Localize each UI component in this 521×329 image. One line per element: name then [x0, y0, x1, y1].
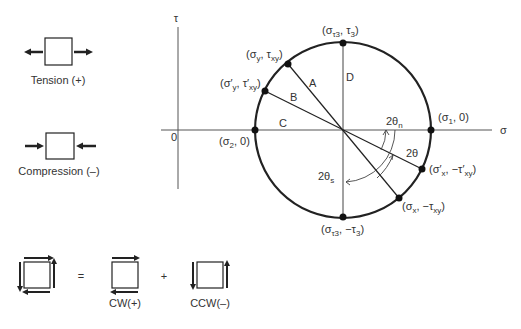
label-point-sigma-x-prime: (σ′x, −τ′xy): [429, 163, 476, 178]
tension-square: [45, 38, 72, 65]
label-two-theta: 2θ: [406, 147, 418, 159]
label-point-top: (στ3, τ3): [322, 24, 359, 39]
tension-arrow-left-icon: [24, 49, 43, 56]
label-point-sigma-2: (σ2, 0): [219, 135, 250, 150]
cw-label: CW(+): [109, 297, 141, 309]
label-point-sigma-y: (σy, τxy): [246, 48, 283, 63]
shear-cw-element: [110, 255, 140, 295]
shear-combined-element: [17, 255, 57, 295]
label-point-sigma-1: (σ1, 0): [438, 111, 469, 126]
equals-sign: =: [78, 270, 84, 282]
two-theta-n-arc: [381, 130, 386, 150]
tau-axis-label: τ: [174, 12, 179, 24]
compression-arrow-right-icon: [76, 143, 96, 150]
label-d: D: [346, 71, 354, 83]
tension-label: Tension (+): [31, 74, 86, 86]
compression-label: Compression (–): [18, 165, 99, 177]
mohr-circle-diagram: Tension (+) Compression (–) τ σ 0: [0, 0, 521, 329]
point-sigma-y-prime: [262, 88, 269, 95]
label-two-theta-s: 2θs: [318, 170, 334, 185]
tension-element: Tension (+): [24, 38, 93, 86]
point-sigma-2: [252, 127, 259, 134]
tension-arrow-right-icon: [74, 49, 93, 56]
sigma-axis-label: σ: [500, 124, 507, 136]
compression-square: [46, 133, 74, 159]
label-point-sigma-x: (σx, −τxy): [402, 200, 445, 215]
plus-sign: +: [161, 270, 167, 282]
label-point-bottom: (στ3, −τ3): [321, 223, 364, 238]
label-point-sigma-y-prime: (σ′y, τ′xy): [220, 77, 261, 92]
compression-element: Compression (–): [18, 133, 99, 177]
label-c: C: [279, 117, 287, 129]
point-top: [340, 40, 347, 47]
label-two-theta-n: 2θn: [386, 115, 403, 130]
compression-arrow-left-icon: [25, 143, 44, 150]
label-a: A: [309, 77, 317, 89]
two-theta-s-arc: [346, 130, 395, 182]
ccw-label: CCW(–): [190, 297, 230, 309]
shear-ccw-element: [190, 260, 230, 290]
point-sigma-x-prime: [419, 166, 426, 173]
origin-label: 0: [171, 131, 177, 143]
point-sigma-1: [428, 127, 435, 134]
label-b: B: [290, 91, 297, 103]
point-sigma-y: [285, 61, 292, 68]
point-bottom: [340, 214, 347, 221]
